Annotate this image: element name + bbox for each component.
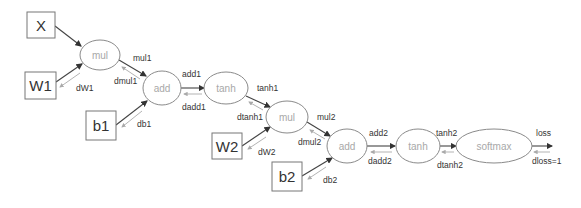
input-b2: b2 [272,162,302,191]
op-add1: add [143,71,181,105]
edge-labels: dW1 mul1 dmul1 db1 add1 dadd1 tanh1 dtan… [76,53,562,185]
input-w2-label: W2 [216,138,239,155]
input-x: X [27,12,55,38]
edge-x-mul1 [55,26,81,46]
op-tanh2: tanh [396,129,440,163]
edge-tanh1-mul2 [246,96,270,107]
label-tanh1: tanh1 [257,83,279,93]
label-db1: db1 [137,119,151,129]
edge-w1-mul1 [56,64,82,82]
op-mul2-label: mul [279,112,295,123]
label-dw2: dW2 [258,147,276,157]
label-dtanh1: dtanh1 [237,112,263,122]
input-x-label: X [36,17,46,34]
label-dadd1: dadd1 [182,102,206,112]
op-softmax: softmax [456,129,532,163]
label-dloss: dloss=1 [532,156,562,166]
op-tanh2-label: tanh [408,141,427,152]
label-db2: db2 [323,175,337,185]
label-add1: add1 [182,69,201,79]
label-mul2: mul2 [317,112,336,122]
label-dw1: dW1 [76,83,94,93]
input-w2: W2 [212,133,242,159]
op-softmax-label: softmax [476,141,511,152]
label-dmul2: dmul2 [298,137,321,147]
label-tanh2: tanh2 [436,128,458,138]
label-dadd2: dadd2 [368,156,392,166]
input-w1-label: W1 [29,77,52,94]
input-w1: W1 [25,72,56,99]
op-add2-label: add [339,141,356,152]
input-b1-label: b1 [93,117,110,134]
computational-graph: X W1 b1 W2 b2 mul add tanh [0,0,581,208]
op-add1-label: add [154,83,171,94]
op-add2: add [327,129,367,163]
label-dmul1: dmul1 [114,76,137,86]
label-add2: add2 [369,128,388,138]
op-tanh1-label: tanh [216,83,235,94]
op-mul1: mul [80,40,120,70]
label-mul1: mul1 [133,53,152,63]
edge-mul2-add2 [307,122,330,136]
input-b2-label: b2 [279,168,296,185]
label-loss: loss [536,128,551,138]
op-mul2: mul [266,101,308,133]
input-b1: b1 [86,111,116,140]
op-mul1-label: mul [92,50,108,61]
label-dtanh2: dtanh2 [437,160,463,170]
op-tanh1: tanh [204,72,248,104]
